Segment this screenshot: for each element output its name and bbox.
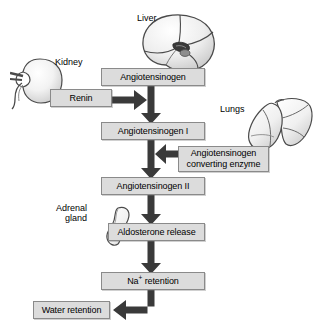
step-water-retention[interactable]: Water retention	[33, 301, 110, 319]
lungs-label: Lungs	[220, 104, 245, 114]
input-converting-enzyme-line2: converting enzyme	[187, 159, 261, 170]
input-converting-enzyme[interactable]: Angiotensinogen converting enzyme	[178, 146, 269, 172]
step-angiotensinogen-ii[interactable]: Angiotensinogen II	[101, 177, 205, 195]
step-aldosterone-release-label: Aldosterone release	[117, 227, 195, 237]
step-na-retention-label: Na+ retention	[127, 276, 179, 286]
liver-label: Liver	[137, 13, 157, 23]
step-na-retention-suffix: retention	[142, 276, 179, 286]
kidney-label: Kidney	[55, 57, 83, 67]
input-converting-enzyme-line1: Angiotensinogen	[191, 148, 257, 159]
input-renin-label: Renin	[69, 93, 92, 103]
step-angiotensinogen-i-label: Angiotensinogen I	[118, 126, 188, 136]
raas-diagram: Kidney Liver	[0, 0, 314, 333]
step-angiotensinogen-ii-label: Angiotensinogen II	[117, 181, 190, 191]
step-na-retention[interactable]: Na+ retention	[101, 272, 205, 290]
adrenal-gland-label-line1: Adrenal	[56, 203, 87, 213]
step-angiotensinogen-label: Angiotensinogen	[120, 72, 186, 82]
step-angiotensinogen-i[interactable]: Angiotensinogen I	[101, 122, 205, 140]
step-angiotensinogen[interactable]: Angiotensinogen	[101, 68, 205, 86]
input-renin[interactable]: Renin	[50, 89, 112, 107]
adrenal-gland-label: Adrenal gland	[56, 203, 87, 224]
adrenal-gland-label-line2: gland	[56, 213, 87, 223]
step-na-retention-prefix: Na	[127, 276, 138, 286]
step-water-retention-label: Water retention	[42, 305, 102, 315]
step-aldosterone-release[interactable]: Aldosterone release	[108, 223, 205, 241]
